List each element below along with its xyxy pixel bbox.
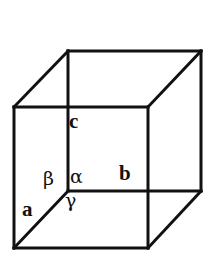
depth-edge-top-right xyxy=(148,51,201,107)
cube-wireframe-svg xyxy=(0,0,212,266)
axis-label-c: c xyxy=(69,111,78,132)
depth-edges xyxy=(14,51,201,248)
depth-edge-bottom-right xyxy=(148,191,201,248)
angle-label-alpha: α xyxy=(70,167,83,186)
angle-label-gamma: γ xyxy=(65,191,76,210)
figure-canvas: c b a α β γ xyxy=(0,0,212,266)
angle-label-beta: β xyxy=(43,169,54,188)
axis-label-a: a xyxy=(22,199,33,220)
axis-label-b: b xyxy=(119,163,131,184)
depth-edge-top-left xyxy=(14,51,68,107)
